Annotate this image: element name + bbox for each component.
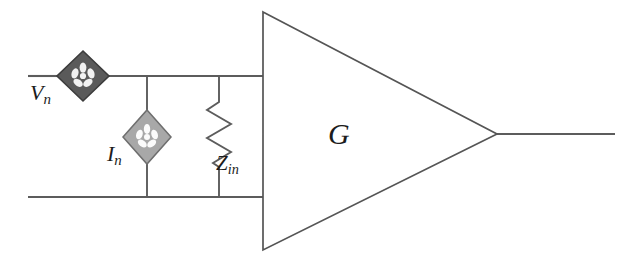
circuit-diagram-canvas: Vn In Zin G (0, 0, 644, 276)
voltage-noise-source-label: Vn (30, 82, 51, 104)
amplifier-triangle (263, 12, 497, 250)
voltage-noise-source (57, 51, 109, 101)
voltage-noise-symbol: V (30, 80, 43, 105)
schematic-svg (0, 0, 644, 276)
amplifier-gain-symbol: G (328, 117, 350, 150)
input-impedance-subscript: in (228, 161, 239, 177)
current-noise-source-label: In (107, 143, 122, 165)
current-noise-source (123, 110, 171, 164)
input-impedance-label: Zin (216, 153, 239, 174)
input-impedance-symbol: Z (216, 151, 228, 175)
voltage-noise-subscript: n (43, 91, 51, 107)
current-noise-subscript: n (114, 152, 122, 168)
amplifier-gain-label: G (328, 119, 350, 149)
